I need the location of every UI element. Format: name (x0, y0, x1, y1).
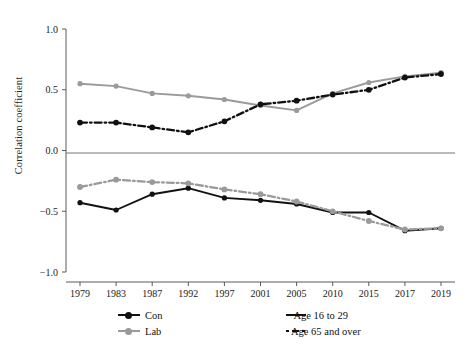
x-tick-label: 2005 (287, 288, 307, 299)
y-tick-label: −0.5 (40, 206, 58, 217)
chart-figure: Correlation coefficient 1.00.50.0−0.5−1.… (0, 0, 471, 351)
data-series-layer (77, 70, 444, 233)
series-data-point (402, 227, 408, 233)
series-data-point (402, 75, 408, 81)
series-data-point (222, 195, 227, 200)
series-data-point (149, 179, 155, 185)
series-data-point (186, 93, 191, 98)
x-tick-label: 2015 (359, 288, 379, 299)
legend-label-con: Con (145, 310, 163, 321)
x-tick-label: 1992 (178, 288, 198, 299)
legend-label-lab: Lab (145, 326, 161, 337)
series-data-point (330, 208, 336, 214)
series-data-point (438, 225, 444, 231)
series-data-point (150, 192, 155, 197)
series-data-point (149, 125, 155, 131)
series-data-point (77, 200, 82, 205)
series-data-point (366, 210, 371, 215)
series-data-point (77, 184, 83, 190)
series-data-point (438, 71, 444, 77)
series-data-point (114, 84, 119, 89)
series-data-point (113, 177, 119, 183)
y-axis-ticks: 1.00.50.0−0.5−1.0 (40, 24, 66, 278)
chart-legend: Con Age 16 to 29 Lab Age 65 and over (118, 307, 468, 339)
x-tick-label: 2019 (431, 288, 451, 299)
series-data-point (150, 91, 155, 96)
lab-colour-key-icon (118, 326, 140, 336)
series-data-point (258, 198, 263, 203)
x-tick-label: 2010 (323, 288, 343, 299)
x-tick-label: 2017 (395, 288, 415, 299)
legend-item-age-old: Age 65 and over (286, 326, 348, 337)
series-data-point (185, 129, 191, 135)
series-data-point (258, 101, 264, 107)
series-data-point (185, 180, 191, 186)
series-data-point (366, 87, 372, 93)
series-data-point (258, 191, 264, 197)
x-axis-ticks: 1979198319871992199720012005201020152017… (70, 282, 451, 299)
series-data-point (222, 187, 228, 193)
series-data-point (186, 186, 191, 191)
x-tick-label: 1979 (70, 288, 90, 299)
x-tick-label: 1997 (214, 288, 234, 299)
series-data-point (330, 92, 336, 98)
x-tick-label: 2001 (251, 288, 271, 299)
plot-area: 1.00.50.0−0.5−1.0 1979198319871992199720… (0, 0, 471, 351)
series-data-point (77, 81, 82, 86)
y-tick-label: 0.5 (46, 84, 59, 95)
series-data-point (113, 120, 119, 126)
x-tick-label: 1987 (142, 288, 162, 299)
series-data-point (294, 98, 300, 104)
series-data-point (294, 199, 300, 205)
legend-item-age-young: Age 16 to 29 (286, 310, 348, 321)
series-data-point (366, 218, 372, 224)
con-colour-key-icon (118, 310, 140, 320)
legend-item-lab: Lab (118, 326, 182, 337)
series-data-point (222, 118, 228, 124)
y-tick-label: 1.0 (46, 24, 59, 35)
legend-item-con: Con (118, 310, 182, 321)
series-data-point (222, 97, 227, 102)
series-data-point (114, 207, 119, 212)
series-data-point (366, 80, 371, 85)
solid-line-key-icon (286, 310, 288, 320)
series-data-point (77, 120, 83, 126)
y-tick-label: −1.0 (40, 267, 58, 278)
y-tick-label: 0.0 (46, 145, 59, 156)
series-data-point (294, 108, 299, 113)
x-tick-label: 1983 (106, 288, 126, 299)
